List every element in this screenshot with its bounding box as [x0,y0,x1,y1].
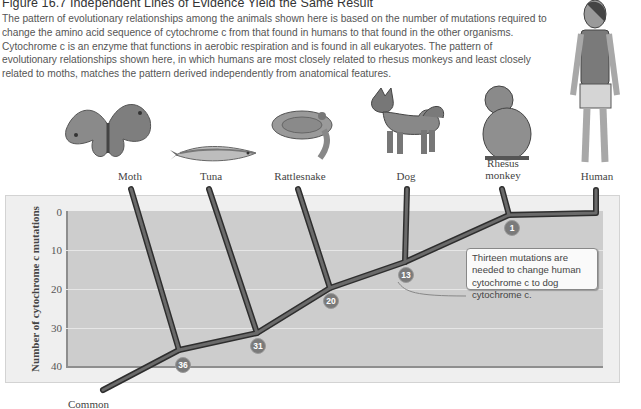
node-badge-31: 31 [250,338,266,354]
node-badge-1: 1 [504,220,520,236]
node-badge-13: 13 [398,267,414,283]
node-badge-36: 36 [175,357,191,373]
phylogenetic-tree [0,0,641,409]
callout-annotation: Thirteen mutations are needed to change … [466,248,598,290]
root-label: Common [68,398,109,409]
node-badge-20: 20 [323,293,339,309]
